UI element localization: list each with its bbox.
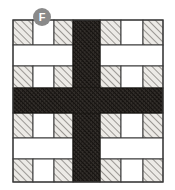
brick-hatched	[13, 113, 33, 138]
quadrant-top-right	[100, 20, 163, 88]
brick-hatched	[54, 159, 73, 182]
brick-hatched	[54, 113, 73, 138]
brick-hatched	[100, 159, 121, 182]
brick-hatched	[54, 66, 73, 88]
brick-void-bar	[13, 138, 73, 159]
brick-hatched	[143, 66, 163, 88]
brick-hatched	[13, 20, 33, 45]
brick-void-bar	[100, 138, 163, 159]
cross-intersection	[73, 88, 100, 113]
brick-hatched	[13, 66, 33, 88]
masonry-pattern-diagram	[0, 0, 175, 190]
brick-hatched	[143, 113, 163, 138]
brick-hatched	[100, 20, 121, 45]
brick-void	[121, 113, 143, 138]
brick-hatched	[13, 159, 33, 182]
brick-hatched	[143, 20, 163, 45]
brick-hatched	[54, 20, 73, 45]
brick-void	[121, 20, 143, 45]
brick-void	[33, 113, 54, 138]
figure-root: F	[0, 0, 175, 190]
brick-hatched	[100, 66, 121, 88]
brick-hatched	[143, 159, 163, 182]
brick-void-bar	[100, 45, 163, 66]
quadrant-top-left	[13, 20, 73, 88]
label-badge-f: F	[33, 8, 51, 26]
quadrant-bottom-right	[100, 113, 163, 182]
quadrant-bottom-left	[13, 113, 73, 182]
brick-void	[33, 66, 54, 88]
brick-void	[121, 66, 143, 88]
brick-void	[33, 159, 54, 182]
brick-hatched	[100, 113, 121, 138]
brick-void	[121, 159, 143, 182]
brick-void-bar	[13, 45, 73, 66]
label-badge-letter: F	[39, 12, 46, 23]
